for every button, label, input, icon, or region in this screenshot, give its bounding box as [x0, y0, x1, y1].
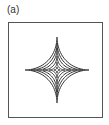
- contour-curve: [43, 56, 71, 84]
- star-contours: [0, 0, 109, 125]
